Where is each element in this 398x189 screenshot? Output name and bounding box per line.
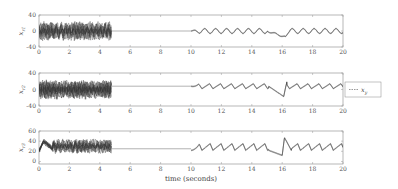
- y-tick-label: 0: [32, 157, 36, 164]
- y-tick-label: 0: [32, 27, 36, 34]
- x-tick-label: 14: [248, 48, 256, 55]
- data-series: [39, 80, 343, 100]
- x-tick-label: 14: [248, 107, 256, 114]
- y-tick-label: -40: [26, 43, 36, 50]
- subplot-3: 024681012141618206040200xr3: [17, 127, 347, 172]
- x-tick-label: 10: [187, 48, 195, 55]
- data-series: [39, 21, 343, 41]
- x-tick-label: 4: [98, 165, 102, 172]
- x-tick-label: 16: [278, 48, 286, 55]
- y-axis-label: xr2: [17, 85, 26, 94]
- x-tick-label: 6: [128, 107, 132, 114]
- x-tick-label: 20: [339, 107, 347, 114]
- x-tick-label: 20: [339, 165, 347, 172]
- x-tick-label: 0: [37, 107, 41, 114]
- subplot-1: 02468101214161820400-40xr1: [17, 11, 347, 55]
- x-tick-label: 2: [67, 165, 71, 172]
- x-tick-label: 0: [37, 165, 41, 172]
- y-tick-label: 60: [28, 127, 36, 134]
- x-tick-label: 6: [128, 165, 132, 172]
- x-tick-label: 14: [248, 165, 256, 172]
- y-tick-label: 40: [28, 69, 36, 76]
- x-tick-label: 4: [98, 107, 102, 114]
- subplot-2: 02468101214161820400-40xr2: [17, 69, 347, 114]
- x-tick-label: 20: [339, 48, 347, 55]
- y-tick-label: 0: [32, 86, 36, 93]
- x-tick-label: 18: [309, 107, 317, 114]
- x-tick-label: 8: [159, 165, 163, 172]
- x-tick-label: 4: [98, 48, 102, 55]
- y-axis-label: xr3: [17, 143, 26, 152]
- x-tick-label: 16: [278, 165, 286, 172]
- x-tick-label: 2: [67, 107, 71, 114]
- x-tick-label: 2: [67, 48, 71, 55]
- x-tick-label: 18: [309, 48, 317, 55]
- x-tick-label: 12: [218, 107, 226, 114]
- x-tick-label: 16: [278, 107, 286, 114]
- data-series: [39, 138, 343, 156]
- x-tick-label: 10: [187, 107, 195, 114]
- x-tick-label: 12: [218, 165, 226, 172]
- y-tick-label: 40: [28, 137, 36, 144]
- x-tick-label: 8: [159, 107, 163, 114]
- chart-figure: 02468101214161820400-40xr102468101214161…: [0, 0, 398, 189]
- x-tick-label: 6: [128, 48, 132, 55]
- y-tick-label: 20: [28, 147, 36, 154]
- x-tick-label: 10: [187, 165, 195, 172]
- x-axis-label: time (seconds): [165, 175, 217, 183]
- x-tick-label: 12: [218, 48, 226, 55]
- legend: xy: [345, 82, 381, 97]
- y-tick-label: 40: [28, 11, 36, 18]
- x-tick-label: 0: [37, 48, 41, 55]
- x-tick-label: 8: [159, 48, 163, 55]
- x-tick-label: 18: [309, 165, 317, 172]
- y-axis-label: xr1: [17, 27, 26, 36]
- y-tick-label: -40: [26, 102, 36, 109]
